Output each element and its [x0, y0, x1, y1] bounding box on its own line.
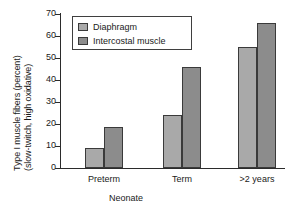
y-tick-label-0: 0 — [36, 163, 56, 172]
y-tick-label-20: 20 — [36, 119, 56, 128]
y-tick-label-10: 10 — [36, 141, 56, 150]
bar-term-diaphragm — [163, 115, 182, 168]
bar-preterm-intercostal-muscle — [104, 127, 123, 168]
bar--2-years-diaphragm — [238, 47, 257, 168]
legend-swatch-diaphragm — [78, 23, 88, 31]
y-tick-label-70: 70 — [36, 9, 56, 18]
x-tick-label--2-years: >2 years — [217, 174, 292, 184]
legend-swatch-intercostal-muscle — [78, 37, 88, 45]
legend-item-diaphragm: Diaphragm — [78, 20, 186, 33]
x-tick-label-term: Term — [142, 174, 222, 184]
bar--2-years-intercostal-muscle — [257, 23, 276, 168]
y-tick-label-50: 50 — [36, 53, 56, 62]
y-axis-tick-labels: 706050403020100 — [36, 0, 56, 175]
x-axis-title-text: Neonate — [109, 193, 143, 203]
x-axis-line — [60, 168, 285, 169]
legend-label-diaphragm: Diaphragm — [93, 22, 137, 32]
legend: Diaphragm Intercostal muscle — [72, 16, 192, 50]
bar-term-intercostal-muscle — [182, 67, 201, 168]
legend-item-intercostal-muscle: Intercostal muscle — [78, 34, 186, 47]
bar-preterm-diaphragm — [85, 148, 104, 168]
y-axis-title: Type I muscle fibers (percent) (slow-twi… — [0, 0, 34, 175]
y-tick-label-30: 30 — [36, 97, 56, 106]
y-tick-label-40: 40 — [36, 75, 56, 84]
y-axis-title-line-1: Type I muscle fibers (percent) — [12, 55, 22, 171]
bar-chart-figure: Type I muscle fibers (percent) (slow-twi… — [0, 0, 292, 215]
y-tick-label-60: 60 — [36, 31, 56, 40]
y-axis-title-line-2: (slow-twitch, high oxidative) — [23, 64, 33, 171]
legend-label-intercostal-muscle: Intercostal muscle — [93, 36, 166, 46]
x-tick-label-preterm: Preterm — [64, 174, 144, 184]
x-axis-title: Neonate — [0, 193, 292, 203]
